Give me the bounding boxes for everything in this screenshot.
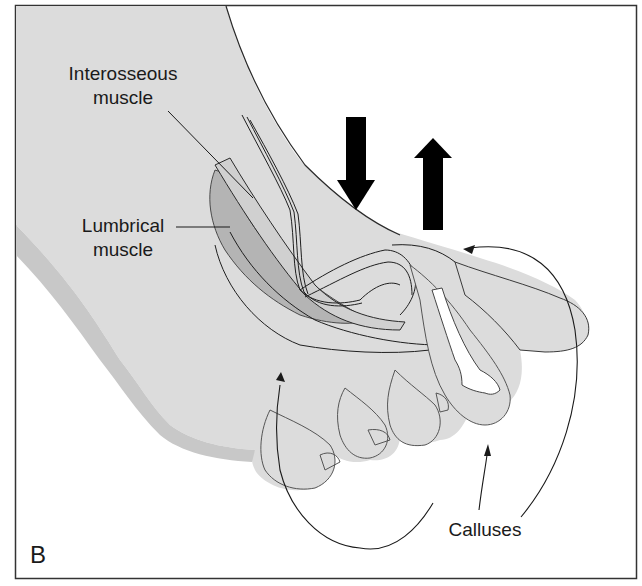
panel-letter: B <box>30 541 46 569</box>
lumbrical-label-line1: Lumbrical <box>68 214 178 238</box>
lumbrical-muscle-label: Lumbrical muscle <box>68 214 178 262</box>
interosseous-label-line2: muscle <box>58 86 188 110</box>
interosseous-label-line1: Interosseous <box>58 62 188 86</box>
calluses-label: Calluses <box>435 518 535 542</box>
interosseous-muscle-label: Interosseous muscle <box>58 62 188 110</box>
lumbrical-label-line2: muscle <box>68 238 178 262</box>
